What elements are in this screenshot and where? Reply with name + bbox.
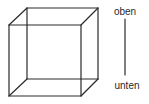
vertical-axis: oben unten [114,6,140,91]
label-bottom: unten [114,80,139,91]
diagram-canvas: oben unten [0,0,149,104]
label-top: oben [114,6,136,17]
cube [9,8,98,96]
necker-cube-diagram: oben unten [0,0,149,104]
cube-edge-top-right [81,8,98,25]
cube-edge-top-left [9,8,27,25]
cube-edge-bottom-left [9,79,27,96]
cube-edge-bottom-right [81,79,98,96]
